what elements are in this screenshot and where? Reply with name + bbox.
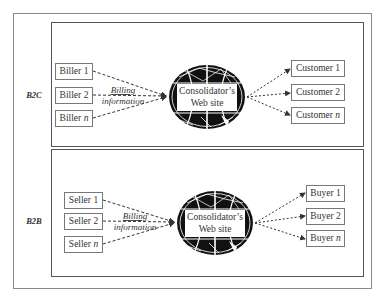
box-name: Customer: [296, 87, 333, 97]
box-name: Customer: [296, 63, 333, 73]
box-suffix: n: [335, 110, 340, 120]
box-suffix: 2: [84, 90, 89, 100]
box-suffix: 1: [335, 63, 340, 73]
box-suffix: n: [336, 233, 341, 243]
box-suffix: 1: [93, 195, 98, 205]
biller-1-box: Biller 1: [55, 63, 93, 80]
biller-n-box: Biller n: [55, 110, 93, 127]
b2b-label: B2B: [18, 216, 50, 226]
customer-1-box: Customer 1: [291, 60, 345, 77]
seller-1-box: Seller 1: [64, 192, 103, 209]
b2c-label: B2C: [18, 90, 50, 100]
seller-2-box: Seller 2: [64, 213, 103, 230]
buyer-2-box: Buyer 2: [306, 208, 345, 225]
box-suffix: 2: [93, 216, 98, 226]
box-suffix: 2: [335, 87, 340, 97]
box-suffix: 1: [336, 188, 341, 198]
biller-2-box: Biller 2: [55, 87, 93, 104]
box-name: Customer: [296, 110, 333, 120]
box-suffix: 2: [336, 211, 341, 221]
box-name: Buyer: [310, 188, 333, 198]
box-name: Biller: [60, 90, 82, 100]
customer-n-box: Customer n: [291, 107, 345, 124]
box-name: Seller: [69, 239, 91, 249]
box-name: Seller: [69, 216, 91, 226]
box-suffix: n: [93, 239, 98, 249]
buyer-1-box: Buyer 1: [306, 185, 345, 202]
box-name: Seller: [69, 195, 91, 205]
box-name: Biller: [60, 113, 82, 123]
bill-consolidation-diagram: B2C Biller 1 Biller 2 Biller n Customer …: [0, 0, 387, 305]
box-suffix: n: [84, 113, 89, 123]
box-name: Buyer: [310, 233, 333, 243]
box-name: Biller: [60, 66, 82, 76]
customer-2-box: Customer 2: [291, 84, 345, 101]
seller-n-box: Seller n: [64, 236, 103, 253]
box-name: Buyer: [310, 211, 333, 221]
box-suffix: 1: [84, 66, 89, 76]
buyer-n-box: Buyer n: [306, 230, 345, 247]
